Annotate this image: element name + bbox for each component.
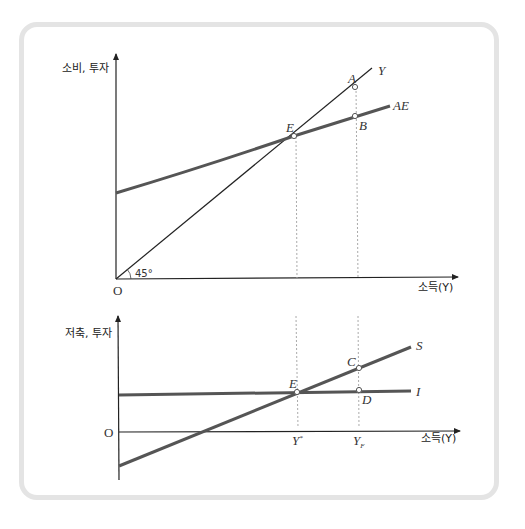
label-point-b: B xyxy=(359,118,367,133)
bottom-x-axis xyxy=(119,431,460,432)
label-i-line: I xyxy=(415,384,421,399)
angle-label: 45° xyxy=(135,268,153,279)
point-d xyxy=(356,387,361,392)
label-point-a: A xyxy=(347,71,356,86)
bottom-dashed-yf xyxy=(358,316,359,428)
bottom-y-axis xyxy=(118,316,119,480)
label-point-d: D xyxy=(361,392,372,407)
tick-y-f: YF xyxy=(353,433,365,450)
label-y-line: Y xyxy=(378,63,387,78)
label-point-e-bottom: E xyxy=(288,376,297,391)
top-x-axis-label: 소득(Y) xyxy=(418,281,453,294)
top-origin-label: O xyxy=(113,283,122,298)
top-y-axis-label: 소비, 투자 xyxy=(62,62,109,75)
top-panel: 소비, 투자 소득(Y) O 45° Y AE A B E xyxy=(62,54,458,298)
bottom-panel: 저축, 투자 소득(Y) O S I C D E Y* YF xyxy=(65,316,460,480)
label-s-line: S xyxy=(416,338,423,353)
bottom-dashed-ystar xyxy=(296,316,298,428)
label-point-e-top: E xyxy=(285,120,294,135)
bottom-origin-label: O xyxy=(104,425,113,440)
label-ae-line: AE xyxy=(392,98,409,113)
keynesian-cross-diagram: 소비, 투자 소득(Y) O 45° Y AE A B E 저축, 투자 소득(… xyxy=(0,0,525,529)
point-b xyxy=(352,113,357,118)
top-x-axis xyxy=(116,277,458,279)
point-c xyxy=(356,365,361,370)
bottom-y-axis-label: 저축, 투자 xyxy=(65,327,112,340)
line-ae xyxy=(116,106,390,193)
tick-y-star: Y* xyxy=(292,433,303,448)
bottom-x-axis-label: 소득(Y) xyxy=(421,432,456,445)
line-y-45deg xyxy=(116,68,372,279)
label-point-c: C xyxy=(347,354,356,369)
angle-arc xyxy=(127,269,131,279)
top-dashed-ystar xyxy=(296,137,297,278)
